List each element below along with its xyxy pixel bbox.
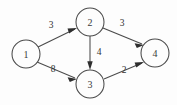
arrowhead-into-3-from-1	[68, 77, 77, 82]
edge-weight-2-3: 4	[97, 47, 102, 57]
graph-diagram: 3 8 4 3 2	[0, 0, 177, 105]
node-4[interactable]: 4	[141, 39, 169, 67]
node-3-label: 3	[88, 79, 93, 90]
node-2[interactable]: 2	[76, 8, 104, 36]
arrowhead-into-4-from-3	[135, 62, 144, 67]
edge-line-2-4	[103, 28, 142, 44]
edge-3-to-4: 2	[104, 62, 144, 79]
edge-weight-3-4: 2	[122, 65, 127, 75]
edge-2-to-3: 4	[87, 36, 101, 70]
node-1-label: 1	[24, 49, 29, 60]
graph-canvas: 3 8 4 3 2	[0, 0, 177, 105]
arrowhead-into-3-from-2	[87, 61, 92, 70]
edge-weight-2-4: 3	[120, 18, 125, 28]
node-3[interactable]: 3	[76, 70, 104, 98]
edge-2-to-4: 3	[103, 18, 144, 48]
edge-1-to-2: 3	[38, 20, 77, 47]
edge-line-1-3	[37, 62, 75, 78]
edge-weight-1-3: 8	[51, 64, 56, 74]
node-4-label: 4	[153, 48, 158, 59]
edge-weight-1-2: 3	[49, 20, 54, 30]
node-2-label: 2	[88, 17, 93, 28]
node-1[interactable]: 1	[12, 40, 40, 68]
arrowhead-into-2	[68, 28, 78, 33]
edge-1-to-3: 8	[37, 62, 77, 82]
